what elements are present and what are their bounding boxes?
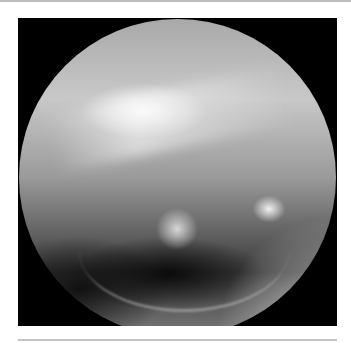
image-frame bbox=[18, 18, 337, 326]
endoscopic-view bbox=[19, 19, 336, 326]
bottom-rule bbox=[18, 339, 337, 341]
top-rule bbox=[0, 0, 351, 2]
lower-right-highlight bbox=[216, 216, 336, 326]
